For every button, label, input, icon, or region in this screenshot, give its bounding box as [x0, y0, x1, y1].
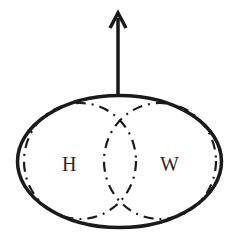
set-label-w: W	[160, 154, 179, 174]
diagram-graphic	[0, 0, 240, 246]
set-label-h: H	[62, 154, 76, 174]
up-arrow-icon	[110, 13, 126, 96]
diagram-canvas: H W	[0, 0, 240, 246]
